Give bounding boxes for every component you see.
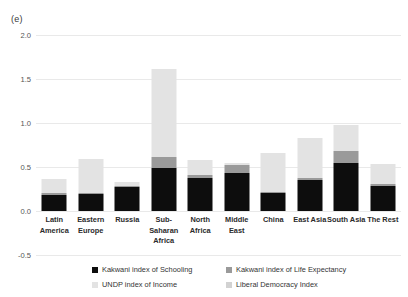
bar-segment[interactable] — [370, 164, 395, 183]
legend-swatch-icon — [92, 282, 98, 288]
x-axis-category-label: The Rest — [359, 215, 407, 226]
bar-segment[interactable] — [334, 125, 359, 151]
legend-label: Kakwani index of Schooling — [102, 265, 192, 274]
legend-swatch-icon — [92, 267, 98, 273]
bar-segment[interactable] — [334, 151, 359, 162]
bar-segment[interactable] — [188, 175, 213, 178]
bar-segment[interactable] — [224, 163, 249, 165]
bar-segment[interactable] — [78, 194, 103, 211]
bar-segment[interactable] — [115, 187, 140, 211]
bar-segment[interactable] — [334, 163, 359, 211]
bar-segment[interactable] — [42, 193, 67, 195]
bar-segment[interactable] — [42, 179, 67, 193]
y-axis-tick-label: 1.0 — [7, 119, 31, 128]
bar-segment[interactable] — [78, 193, 103, 195]
bar-segment[interactable] — [224, 173, 249, 211]
bar-segment[interactable] — [297, 180, 322, 211]
gridline — [36, 255, 401, 256]
bar-segment[interactable] — [115, 182, 140, 186]
y-axis-tick-label: 2.0 — [7, 31, 31, 40]
bar-segment[interactable] — [297, 178, 322, 181]
panel-label: (e) — [11, 14, 23, 24]
bar-group: Latin AmericaEastern EuropeRussiaSub- Sa… — [36, 35, 401, 255]
legend-item[interactable]: UNDP index of Income — [92, 280, 226, 289]
y-axis-tick-label: 0.0 — [7, 207, 31, 216]
legend-item[interactable]: Liberal Democracy Index — [226, 280, 344, 289]
chart-legend: Kakwani index of SchoolingKakwani index … — [92, 262, 342, 292]
bar-segment[interactable] — [224, 165, 249, 173]
y-axis-tick-label: 0.5 — [7, 163, 31, 172]
bar-segment[interactable] — [261, 153, 286, 192]
legend-swatch-icon — [226, 282, 232, 288]
legend-swatch-icon — [226, 267, 232, 273]
plot-area: 2.01.51.00.50.0-0.5 Latin AmericaEastern… — [36, 35, 401, 255]
bar-segment[interactable] — [151, 69, 176, 157]
bar-segment[interactable] — [188, 178, 213, 211]
legend-item[interactable]: Kakwani index of Life Expectancy — [226, 265, 344, 274]
legend-label: Kakwani index of Life Expectancy — [236, 265, 346, 274]
bar-segment[interactable] — [115, 186, 140, 187]
legend-item[interactable]: Kakwani index of Schooling — [92, 265, 226, 274]
bar-slot: The Rest — [365, 35, 402, 255]
bar-segment[interactable] — [297, 138, 322, 178]
bar-segment[interactable] — [261, 192, 286, 194]
y-axis-tick-label: -0.5 — [7, 251, 31, 260]
bar-segment[interactable] — [151, 168, 176, 211]
chart-figure: (e) 2.01.51.00.50.0-0.5 Latin AmericaEas… — [0, 0, 408, 297]
bar-segment[interactable] — [188, 160, 213, 175]
bar-segment[interactable] — [370, 184, 395, 187]
bar-segment[interactable] — [78, 159, 103, 192]
legend-label: Liberal Democracy Index — [236, 280, 318, 289]
bar-segment[interactable] — [370, 186, 395, 211]
bar-segment[interactable] — [151, 157, 176, 168]
bar-segment[interactable] — [261, 193, 286, 211]
y-axis-tick-label: 1.5 — [7, 75, 31, 84]
legend-label: UNDP index of Income — [102, 280, 177, 289]
bar-segment[interactable] — [42, 195, 67, 211]
